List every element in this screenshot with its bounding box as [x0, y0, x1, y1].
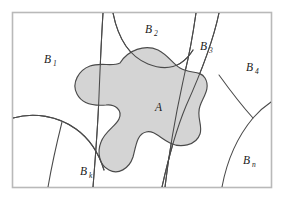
label-bn-subscript: n [252, 160, 256, 169]
label-b4-subscript: 4 [255, 67, 259, 76]
label-b4-base: B [246, 61, 253, 73]
label-bk-base: B [80, 165, 87, 177]
label-b2-subscript: 2 [154, 29, 158, 38]
label-b1-base: B [44, 53, 51, 65]
label-b3-subscript: 3 [208, 46, 213, 55]
label-set-a: A [154, 101, 163, 113]
label-b3-base: B [200, 40, 207, 52]
label-b1-subscript: 1 [53, 59, 57, 68]
partition-diagram-svg: B 1 B 2 B 3 B 4 B k B n [0, 0, 284, 200]
label-bn-base: B [243, 154, 250, 166]
label-b2-base: B [145, 23, 152, 35]
figure-root: B 1 B 2 B 3 B 4 B k B n [0, 0, 284, 200]
